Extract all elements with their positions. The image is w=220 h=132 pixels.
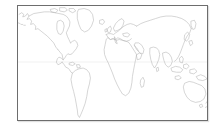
- canada-arctic-islands: [51, 8, 76, 13]
- sri-lanka-coastline: [157, 67, 159, 71]
- hudson-bay-coastline: [57, 20, 64, 34]
- europe-coastline: [106, 24, 136, 35]
- gulf-of-mexico-coastline: [56, 57, 63, 65]
- mexico-central-america-coastline: [58, 50, 73, 73]
- map-thumbnail-root: [0, 0, 220, 132]
- tasmania-coastline: [200, 104, 203, 107]
- greenland-coastline: [77, 9, 93, 32]
- iceland-coastline: [100, 19, 105, 24]
- southeast-asia-coastline: [163, 52, 172, 67]
- madagascar-coastline: [140, 77, 144, 87]
- new-guinea-coastline: [197, 75, 208, 81]
- asia-north-coastline: [137, 16, 192, 29]
- caribbean-islands: [69, 62, 80, 68]
- black-sea-coastline: [123, 33, 130, 37]
- aleutian-islands: [18, 23, 25, 26]
- british-isles-coastline: [105, 26, 111, 33]
- coastlines-group: [18, 8, 207, 118]
- arabia-coastline: [135, 43, 144, 54]
- alaska-coastline: [19, 13, 58, 50]
- indonesia-coastline: [171, 64, 197, 80]
- australia-coastline: [183, 81, 206, 102]
- canada-north-coastline: [29, 12, 70, 43]
- africa-coastline: [104, 38, 137, 96]
- scandinavia-coastline: [114, 19, 125, 32]
- horn-of-africa-coastline: [137, 53, 142, 60]
- world-map-svg: [18, 6, 207, 120]
- mediterranean-coastline: [106, 35, 131, 42]
- south-america-coastline: [71, 68, 90, 117]
- india-coastline: [150, 47, 160, 68]
- usa-east-coastline: [63, 40, 78, 59]
- new-zealand-coastline: [205, 102, 207, 108]
- kamchatka-coastline: [191, 20, 196, 29]
- world-map-panel[interactable]: [17, 5, 208, 121]
